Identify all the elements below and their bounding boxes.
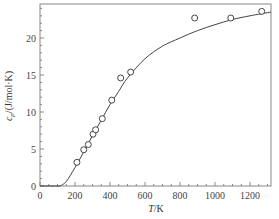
data-point-marker xyxy=(128,69,134,75)
data-point-marker xyxy=(85,142,91,148)
x-tick-label: 1200 xyxy=(240,190,260,201)
y-tick-label: 15 xyxy=(26,70,36,81)
y-axis-ticks: 05101520 xyxy=(26,8,44,191)
x-axis-ticks: 020040060080010001200 xyxy=(38,182,268,201)
x-axis-title: T/K xyxy=(148,203,164,214)
x-tick-label: 400 xyxy=(103,190,118,201)
cp-vs-temperature-chart: 020040060080010001200 05101520 T/K cp/(J… xyxy=(0,0,279,219)
y-tick-label: 20 xyxy=(26,33,36,44)
data-point-marker xyxy=(228,15,234,21)
data-point-marker xyxy=(99,116,105,122)
y-tick-label: 0 xyxy=(31,181,36,192)
y-axis-title: cp/(J/mol·K) xyxy=(3,71,16,121)
x-tick-label: 200 xyxy=(68,190,83,201)
data-point-marker xyxy=(118,75,124,81)
x-tick-label: 800 xyxy=(173,190,188,201)
data-points xyxy=(74,8,265,165)
x-tick-label: 1000 xyxy=(205,190,225,201)
data-point-marker xyxy=(259,8,265,14)
y-tick-label: 10 xyxy=(26,107,36,118)
data-point-marker xyxy=(109,97,115,103)
data-point-marker xyxy=(93,127,99,133)
y-tick-label: 5 xyxy=(31,144,36,155)
x-tick-label: 0 xyxy=(38,190,43,201)
data-point-marker xyxy=(74,159,80,165)
data-point-marker xyxy=(192,15,198,21)
x-tick-label: 600 xyxy=(138,190,153,201)
plot-frame xyxy=(40,4,271,186)
data-point-marker xyxy=(81,147,87,153)
